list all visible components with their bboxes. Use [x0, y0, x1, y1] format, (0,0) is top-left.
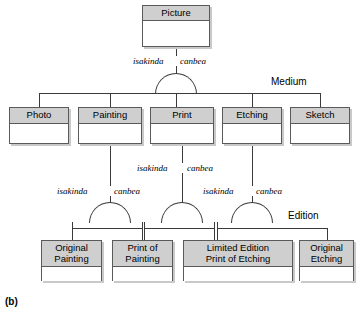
constraint-arc-edition: [231, 202, 273, 223]
entity-box-print-of-painting[interactable]: Print of Painting: [112, 240, 173, 281]
entity-body-original-painting: [42, 267, 101, 281]
discriminator-label-edition: Edition: [288, 210, 319, 221]
entity-box-original-painting[interactable]: Original Painting: [41, 240, 102, 281]
relationship-label-canbea-picture: canbea: [180, 56, 206, 66]
connector-picture-stem-upper: [176, 47, 177, 56]
entity-box-photo[interactable]: Photo: [9, 107, 69, 144]
connector-bus-medium: [39, 93, 321, 94]
generalization-hierarchy-diagram: Picture Photo Painting Print Etching Ske…: [0, 0, 361, 312]
entity-box-painting[interactable]: Painting: [78, 107, 142, 144]
entity-title-painting: Painting: [79, 108, 141, 124]
connector-etching-stem-upper: [252, 144, 253, 186]
relationship-label-isakinda-print: isakinda: [137, 163, 168, 173]
entity-body-limited-edition-print-of-etching: [184, 267, 292, 281]
entity-title-etching: Etching: [223, 108, 281, 124]
connector-bus-edition: [217, 228, 327, 229]
connector-painting-stem-upper: [110, 144, 111, 186]
entity-body-print-of-painting: [113, 267, 172, 281]
connector-bus-print: [144, 228, 214, 229]
entity-box-original-etching[interactable]: Original Etching: [299, 240, 354, 281]
connector-drop-etching: [252, 93, 253, 108]
connector-print-stem-upper: [182, 144, 183, 163]
relationship-label-isakinda-picture: isakinda: [133, 56, 164, 66]
entity-box-sketch[interactable]: Sketch: [290, 107, 350, 144]
connector-drop-sketch: [320, 93, 321, 108]
entity-title-original-painting: Original Painting: [42, 241, 101, 267]
connector-print-stem-lower: [182, 173, 183, 203]
entity-title-picture: Picture: [143, 6, 209, 21]
entity-body-photo: [10, 124, 68, 143]
entity-body-painting: [79, 124, 141, 143]
entity-box-picture[interactable]: Picture: [142, 5, 210, 47]
entity-body-etching: [223, 124, 281, 143]
connector-drop-photo: [39, 93, 40, 108]
entity-title-original-etching: Original Etching: [300, 241, 353, 267]
constraint-arc-painting: [89, 202, 131, 223]
entity-box-limited-edition-print-of-etching[interactable]: Limited Edition Print of Etching: [183, 240, 293, 281]
entity-box-etching[interactable]: Etching: [222, 107, 282, 144]
connector-drop-limited-edition-left: [214, 222, 215, 241]
connector-drop-print-of-painting-2: [144, 222, 145, 241]
connector-drop-limited-edition-right: [217, 222, 218, 241]
entity-title-print-of-painting: Print of Painting: [113, 241, 172, 267]
connector-drop-print: [176, 93, 177, 108]
constraint-arc-print: [161, 202, 203, 223]
entity-title-sketch: Sketch: [291, 108, 349, 124]
entity-body-sketch: [291, 124, 349, 143]
entity-box-print[interactable]: Print: [150, 107, 214, 144]
entity-body-print: [151, 124, 213, 143]
connector-drop-print-of-painting: [142, 222, 143, 241]
discriminator-label-medium: Medium: [271, 76, 307, 87]
entity-title-photo: Photo: [10, 108, 68, 124]
entity-title-limited-edition-print-of-etching: Limited Edition Print of Etching: [184, 241, 292, 267]
relationship-label-isakinda-painting: isakinda: [57, 186, 88, 196]
entity-title-print: Print: [151, 108, 213, 124]
relationship-label-isakinda-etching: isakinda: [203, 186, 234, 196]
connector-drop-original-painting: [72, 222, 73, 241]
relationship-label-canbea-painting: canbea: [114, 186, 140, 196]
constraint-arc-medium: [155, 73, 197, 94]
relationship-label-canbea-etching: canbea: [256, 186, 282, 196]
entity-body-picture: [143, 21, 209, 46]
entity-body-original-etching: [300, 267, 353, 281]
connector-drop-painting: [110, 93, 111, 108]
relationship-label-canbea-print: canbea: [187, 163, 213, 173]
connector-bus-painting: [72, 228, 142, 229]
figure-caption: (b): [5, 296, 18, 307]
